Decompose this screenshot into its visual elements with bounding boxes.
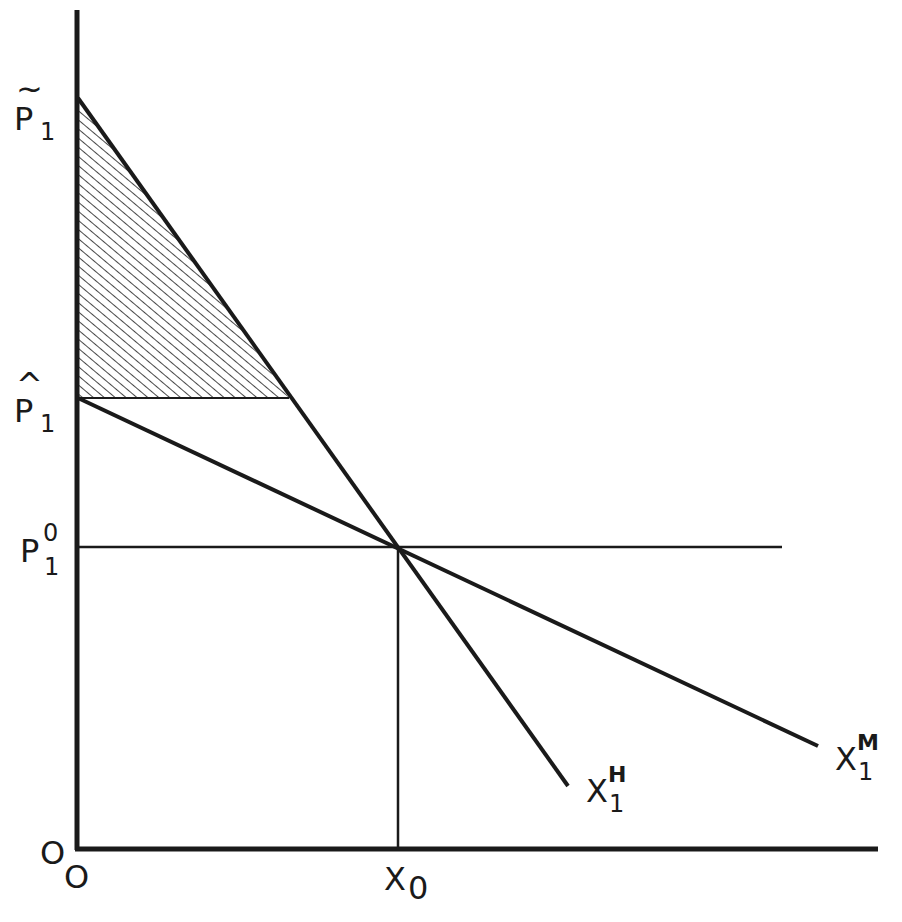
diagram: P ~ 1 P ^ 1 P 0 1 O O X 0 X H 1 X M 1 bbox=[0, 0, 902, 922]
x1-m-curve bbox=[78, 398, 818, 746]
label-x1-h: X H 1 bbox=[586, 762, 626, 818]
svg-text:X: X bbox=[586, 772, 608, 810]
label-origin-x: O bbox=[64, 858, 89, 896]
svg-text:O: O bbox=[40, 834, 65, 872]
svg-text:1: 1 bbox=[858, 758, 873, 786]
label-p-tilde: P ~ 1 bbox=[14, 70, 55, 146]
svg-text:^: ^ bbox=[16, 366, 43, 404]
svg-text:P: P bbox=[20, 532, 39, 570]
svg-text:1: 1 bbox=[609, 790, 624, 818]
svg-text:1: 1 bbox=[40, 118, 55, 146]
svg-text:O: O bbox=[64, 858, 89, 896]
svg-text:0: 0 bbox=[408, 869, 428, 907]
svg-text:X: X bbox=[384, 860, 406, 898]
svg-text:M: M bbox=[857, 730, 879, 755]
svg-text:X: X bbox=[835, 740, 857, 778]
label-x1-m: X M 1 bbox=[835, 730, 879, 786]
svg-text:H: H bbox=[608, 762, 626, 787]
label-p-hat: P ^ 1 bbox=[14, 366, 55, 438]
svg-text:0: 0 bbox=[43, 519, 58, 547]
svg-text:1: 1 bbox=[40, 410, 55, 438]
x1-h-curve bbox=[78, 98, 568, 786]
label-origin-y: O bbox=[40, 834, 65, 872]
label-p-zero: P 0 1 bbox=[20, 519, 59, 581]
svg-text:1: 1 bbox=[44, 553, 59, 581]
label-x-zero: X 0 bbox=[384, 860, 428, 907]
svg-text:~: ~ bbox=[16, 70, 43, 108]
